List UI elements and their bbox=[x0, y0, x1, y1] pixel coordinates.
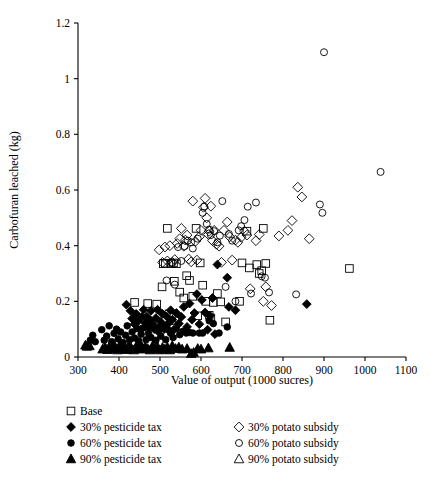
data-point bbox=[195, 320, 204, 329]
x-tick-label: 500 bbox=[151, 364, 168, 376]
chart-legend: Base30% pesticide tax30% potato subsidy6… bbox=[62, 404, 422, 468]
data-point bbox=[200, 193, 210, 203]
data-point bbox=[252, 199, 259, 206]
data-point bbox=[316, 201, 323, 208]
data-point bbox=[192, 255, 202, 265]
filled-diamond-marker-icon bbox=[62, 420, 80, 434]
legend-entry-right: 30% potato subsidy bbox=[230, 420, 380, 434]
legend-row: 60% pesticide tax60% potato subsidy bbox=[62, 436, 422, 452]
legend-entry-left: Base bbox=[62, 404, 212, 418]
data-point bbox=[170, 334, 177, 341]
data-point bbox=[164, 225, 172, 233]
data-point bbox=[297, 192, 307, 202]
data-point bbox=[213, 260, 222, 269]
data-point bbox=[103, 333, 110, 340]
data-point bbox=[98, 326, 105, 333]
x-tick-label: 800 bbox=[274, 364, 291, 376]
data-point bbox=[224, 324, 231, 331]
data-point bbox=[235, 227, 242, 234]
data-point bbox=[138, 331, 145, 338]
data-point bbox=[246, 264, 254, 272]
y-tick-label: 0.2 bbox=[56, 295, 70, 307]
data-point bbox=[66, 454, 76, 463]
y-axis-title: Carbofuran leached (kg) bbox=[7, 131, 22, 248]
data-point bbox=[217, 298, 225, 306]
legend-label: 30% pesticide tax bbox=[80, 421, 162, 433]
x-tick-label: 1000 bbox=[354, 364, 377, 376]
data-point bbox=[248, 290, 255, 297]
data-point bbox=[251, 236, 261, 246]
data-point bbox=[293, 291, 300, 298]
data-point bbox=[283, 225, 293, 235]
data-point bbox=[183, 272, 191, 280]
data-point bbox=[223, 273, 232, 282]
data-point bbox=[190, 330, 197, 337]
data-point bbox=[89, 332, 96, 339]
x-tick-label: 900 bbox=[315, 364, 332, 376]
y-tick-label: 1 bbox=[64, 73, 70, 85]
data-point bbox=[106, 323, 113, 330]
data-point bbox=[196, 259, 204, 267]
data-point bbox=[222, 283, 229, 290]
data-point bbox=[245, 284, 255, 294]
data-point bbox=[262, 260, 270, 268]
data-point bbox=[238, 259, 246, 267]
data-point bbox=[192, 225, 200, 233]
data-point bbox=[377, 168, 384, 175]
data-point bbox=[346, 265, 354, 273]
data-point bbox=[176, 224, 186, 234]
data-point bbox=[227, 255, 237, 265]
series-30-potato-subsidy bbox=[154, 182, 314, 310]
x-tick-label: 300 bbox=[69, 364, 86, 376]
data-point bbox=[244, 203, 251, 210]
data-point bbox=[158, 283, 166, 291]
legend-row: Base bbox=[62, 404, 422, 420]
y-tick-label: 1.2 bbox=[56, 17, 70, 29]
y-tick-label: 0 bbox=[64, 351, 70, 363]
data-point bbox=[241, 217, 248, 224]
open-circle-marker-icon bbox=[230, 436, 248, 450]
data-point bbox=[199, 330, 206, 337]
legend-label: Base bbox=[80, 405, 102, 417]
legend-label: 90% potato subsidy bbox=[248, 453, 339, 465]
legend-entry-left: 90% pesticide tax bbox=[62, 452, 212, 466]
legend-label: 60% potato subsidy bbox=[248, 437, 339, 449]
data-point bbox=[124, 323, 131, 330]
data-point bbox=[216, 232, 223, 239]
data-point bbox=[140, 324, 147, 331]
legend-label: 60% pesticide tax bbox=[80, 437, 162, 449]
legend-entry-right: 90% potato subsidy bbox=[230, 452, 380, 466]
filled-triangle-marker-icon bbox=[62, 452, 80, 466]
open-square-marker-icon bbox=[62, 404, 80, 418]
y-tick-label: 0.4 bbox=[56, 240, 70, 252]
scatter-plot-figure: Carbofuran leached (kg) Value of output … bbox=[0, 0, 431, 485]
x-tick-label: 600 bbox=[192, 364, 209, 376]
data-point bbox=[199, 281, 207, 289]
data-point bbox=[189, 245, 196, 252]
data-point bbox=[216, 330, 223, 337]
data-point bbox=[225, 343, 235, 352]
y-tick-label: 0.6 bbox=[56, 184, 70, 196]
data-point bbox=[293, 182, 303, 192]
data-point bbox=[186, 277, 194, 285]
data-point bbox=[234, 422, 244, 432]
data-point bbox=[236, 298, 244, 306]
x-tick-label: 400 bbox=[110, 364, 127, 376]
data-point bbox=[266, 316, 274, 324]
data-point bbox=[321, 49, 328, 56]
x-tick-label: 700 bbox=[233, 364, 250, 376]
data-point bbox=[92, 338, 99, 345]
legend-row: 90% pesticide tax90% potato subsidy bbox=[62, 452, 422, 468]
data-point bbox=[234, 454, 244, 463]
data-point bbox=[67, 407, 75, 415]
data-point bbox=[266, 289, 273, 296]
data-point bbox=[162, 336, 169, 343]
data-point bbox=[173, 325, 180, 332]
data-point bbox=[188, 196, 198, 206]
legend-label: 30% potato subsidy bbox=[248, 421, 339, 433]
data-point bbox=[210, 320, 217, 327]
y-tick-label: 0.8 bbox=[56, 128, 70, 140]
data-point bbox=[274, 231, 284, 241]
data-point bbox=[131, 299, 139, 307]
x-tick-label: 1100 bbox=[395, 364, 418, 376]
